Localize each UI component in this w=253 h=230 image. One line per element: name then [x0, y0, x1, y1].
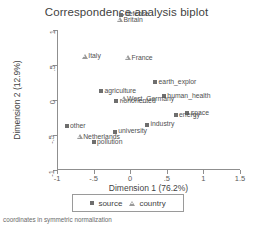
- chart-root: Correspondence analysis biplot Dimension…: [0, 0, 253, 230]
- legend-item-source[interactable]: source: [90, 199, 122, 208]
- data-point-label: West_Germany: [127, 95, 174, 102]
- data-point-label: industry: [151, 120, 175, 127]
- open-triangle-icon: [125, 55, 131, 60]
- x-axis-tick-label: .5: [164, 174, 170, 183]
- chart-legend: source country: [72, 194, 184, 212]
- open-triangle-icon: [117, 17, 123, 22]
- legend-label-source: source: [98, 199, 122, 208]
- data-point-label: university: [118, 127, 147, 134]
- y-axis-tick-label: -1: [48, 170, 57, 177]
- data-point-label: earth_explor: [159, 78, 197, 85]
- y-axis-tick-label: 0: [48, 100, 57, 104]
- plot-area: Dimension 1 (76.2%) Dimension 2 (12.9%) …: [57, 30, 240, 170]
- y-axis-tick-label: .5: [48, 65, 57, 71]
- y-axis-title: Dimension 2 (12.9%): [12, 60, 22, 139]
- data-point-label: other: [70, 122, 86, 129]
- open-triangle-icon: [77, 134, 83, 139]
- x-axis-tick-label: -.5: [89, 174, 98, 183]
- open-triangle-icon: [121, 96, 127, 101]
- data-point-label: energy: [179, 111, 200, 118]
- filled-square-icon: [174, 113, 178, 117]
- filled-square-icon: [114, 99, 118, 103]
- data-point-label: agriculture: [104, 87, 136, 94]
- filled-square-icon: [153, 80, 157, 84]
- open-triangle-icon: [82, 54, 88, 59]
- data-point-label: France: [132, 54, 153, 61]
- filled-square-icon: [99, 89, 103, 93]
- data-point-label: Britain: [123, 16, 142, 23]
- x-axis-title: Dimension 1 (76.2%): [57, 183, 240, 193]
- legend-label-country: country: [139, 199, 165, 208]
- data-point-label: Italy: [88, 52, 100, 59]
- filled-square-icon: [145, 123, 149, 127]
- filled-square-icon: [90, 201, 94, 205]
- data-point-label: Netherlands: [83, 133, 120, 140]
- open-triangle-icon: [129, 201, 135, 206]
- y-axis-tick-label: -.5: [48, 135, 57, 144]
- x-axis-line: [57, 169, 240, 170]
- chart-footnote: coordinates in symmetric normalization: [3, 216, 112, 223]
- x-axis-tick-label: 1: [201, 174, 205, 183]
- filled-square-icon: [65, 124, 69, 128]
- y-axis-line: [57, 30, 58, 170]
- legend-item-country[interactable]: country: [129, 199, 165, 208]
- x-axis-tick-label: 0: [128, 174, 132, 183]
- filled-square-icon: [92, 140, 96, 144]
- y-axis-tick-label: 1: [48, 30, 57, 34]
- x-axis-tick-label: 1.5: [235, 174, 245, 183]
